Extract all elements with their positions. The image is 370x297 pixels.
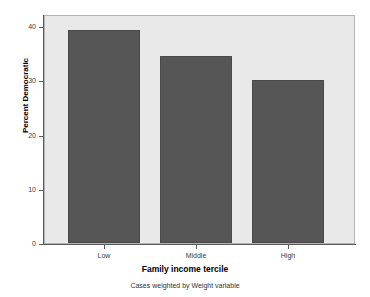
x-tick-mark-middle: [196, 245, 197, 249]
x-tick-mark-high: [288, 245, 289, 249]
x-tick-label-low: Low: [59, 251, 149, 260]
plot-inner: [45, 16, 354, 243]
plot-area: [44, 15, 355, 244]
y-tick-mark-30: [39, 81, 44, 82]
y-tick-label-0: 0: [6, 240, 36, 248]
x-tick-mark-low: [104, 245, 105, 249]
x-axis-line: [43, 244, 356, 245]
x-tick-label-high: High: [243, 251, 333, 260]
bar-high: [252, 80, 324, 243]
y-tick-mark-20: [39, 136, 44, 137]
y-tick-label-10: 10: [6, 186, 36, 194]
y-axis-title: Percent Democratic: [21, 26, 30, 166]
y-axis-line: [43, 15, 44, 245]
x-tick-label-middle: Middle: [151, 251, 241, 260]
bar-chart: 40 30 20 10 0 Low Middle High Percent De…: [0, 0, 370, 297]
y-tick-mark-40: [39, 27, 44, 28]
bar-middle: [160, 56, 232, 243]
y-tick-mark-0: [39, 244, 44, 245]
chart-footnote: Cases weighted by Weight variable: [0, 281, 370, 290]
bar-low: [68, 30, 140, 243]
x-axis-title: Family income tercile: [0, 264, 370, 274]
y-tick-mark-10: [39, 190, 44, 191]
